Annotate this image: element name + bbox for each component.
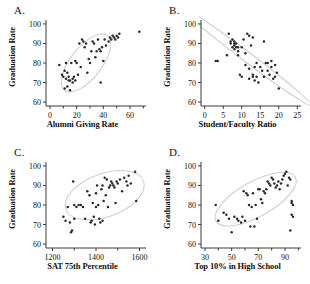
y-tick-label: 60 (188, 98, 196, 107)
y-tick-label: 90 (188, 39, 196, 48)
panel-b-x-axis-label: Student/Faculty Ratio (165, 119, 310, 129)
panel-d: D. Graduation Rate 6070809010030507090 T… (155, 142, 310, 284)
y-tick-label: 100 (184, 20, 196, 29)
y-tick-label: 70 (33, 79, 41, 88)
panel-a-x-axis-label: Alumni Giving Rate (10, 119, 155, 129)
y-tick-label: 60 (33, 240, 41, 249)
y-tick-label: 70 (33, 221, 41, 230)
y-tick-label: 70 (188, 79, 196, 88)
y-tick-label: 60 (33, 98, 41, 107)
panel-c-x-axis-label: SAT 75th Percentile (10, 261, 155, 271)
y-tick-label: 70 (188, 221, 196, 230)
y-tick-label: 80 (33, 201, 41, 210)
data-points (62, 171, 137, 234)
confidence-ellipse (207, 162, 303, 237)
y-tick-label: 80 (188, 201, 196, 210)
y-tick-label: 80 (188, 59, 196, 68)
panel-c: C. Graduation Rate 607080901001200140016… (0, 142, 155, 284)
scatter-plot-matrix-figure: A. Graduation Rate 607080901000204060 Al… (0, 0, 310, 284)
panel-b: B. Graduation Rate 607080901000510152025… (155, 0, 310, 142)
data-points (215, 32, 280, 89)
y-tick-label: 60 (188, 240, 196, 249)
data-points (58, 30, 141, 91)
y-tick-label: 80 (33, 59, 41, 68)
confidence-ellipse (179, 4, 310, 110)
y-tick-label: 90 (33, 181, 41, 190)
y-tick-label: 90 (33, 39, 41, 48)
y-tick-label: 100 (29, 162, 41, 171)
y-tick-label: 100 (29, 20, 41, 29)
y-tick-label: 90 (188, 181, 196, 190)
panel-a: A. Graduation Rate 607080901000204060 Al… (0, 0, 155, 142)
y-tick-label: 100 (184, 162, 196, 171)
panel-d-x-axis-label: Top 10% in High School (165, 261, 310, 271)
